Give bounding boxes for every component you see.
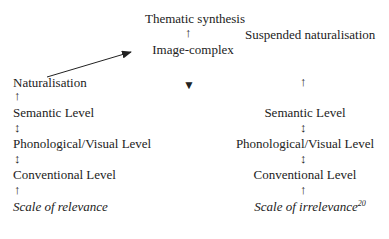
right-conventional-level: Conventional Level — [254, 167, 357, 182]
arrow-up-icon: ↑ — [300, 183, 307, 196]
scale-of-irrelevance-label: Scale of irrelevance20 — [254, 199, 365, 214]
arrow-up-icon: ↑ — [300, 75, 307, 88]
left-semantic-level: Semantic Level — [13, 105, 94, 120]
right-phonological-visual-level: Phonological/Visual Level — [236, 136, 374, 151]
scale-of-relevance-label: Scale of relevance — [13, 199, 108, 214]
arrow-up-down-icon: ↕ — [300, 121, 307, 134]
arrow-up-down-icon: ↕ — [14, 152, 21, 165]
naturalisation-label: Naturalisation — [13, 75, 87, 90]
arrow-up-icon: ↑ — [14, 183, 21, 196]
arrow-up-icon: ↑ — [185, 26, 192, 39]
arrow-up-down-icon: ↕ — [300, 152, 307, 165]
footnote-marker: 20 — [358, 199, 366, 208]
thematic-synthesis-label: Thematic synthesis — [145, 11, 245, 26]
image-complex-label: Image-complex — [152, 42, 234, 57]
triangle-down-icon: ▼ — [183, 79, 195, 92]
scale-of-irrelevance-text: Scale of irrelevance — [254, 199, 357, 214]
arrow-up-icon: ↑ — [14, 89, 21, 102]
right-semantic-level: Semantic Level — [264, 105, 345, 120]
suspended-naturalisation-label: Suspended naturalisation — [245, 27, 375, 42]
arrow-up-down-icon: ↕ — [14, 121, 21, 134]
left-phonological-visual-level: Phonological/Visual Level — [13, 136, 151, 151]
left-conventional-level: Conventional Level — [13, 167, 116, 182]
